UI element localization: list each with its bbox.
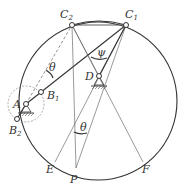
label-theta-top: θ xyxy=(49,61,56,74)
line-c2-p xyxy=(72,25,76,168)
label-f: F xyxy=(141,163,150,176)
label-psi: ψ xyxy=(97,46,106,59)
joint-c2 xyxy=(70,23,75,28)
rocker-d-c2 xyxy=(72,25,99,76)
label-e: E xyxy=(45,163,54,176)
label-d: D xyxy=(84,70,94,83)
label-theta-bottom: θ xyxy=(80,121,87,134)
joint-a xyxy=(24,102,29,107)
label-p: P xyxy=(69,173,78,186)
label-a: A xyxy=(12,98,21,111)
label-b2: B2 xyxy=(8,124,22,138)
joint-b2 xyxy=(15,117,20,122)
label-b1: B1 xyxy=(46,89,60,103)
label-c1: C1 xyxy=(125,8,138,22)
joint-b1 xyxy=(39,90,44,95)
label-c2: C2 xyxy=(60,8,73,22)
joint-d xyxy=(97,74,102,79)
mechanism-diagram: C2 C1 D B1 A B2 E P F θ ψ θ xyxy=(0,0,184,191)
joint-c1 xyxy=(124,23,129,28)
